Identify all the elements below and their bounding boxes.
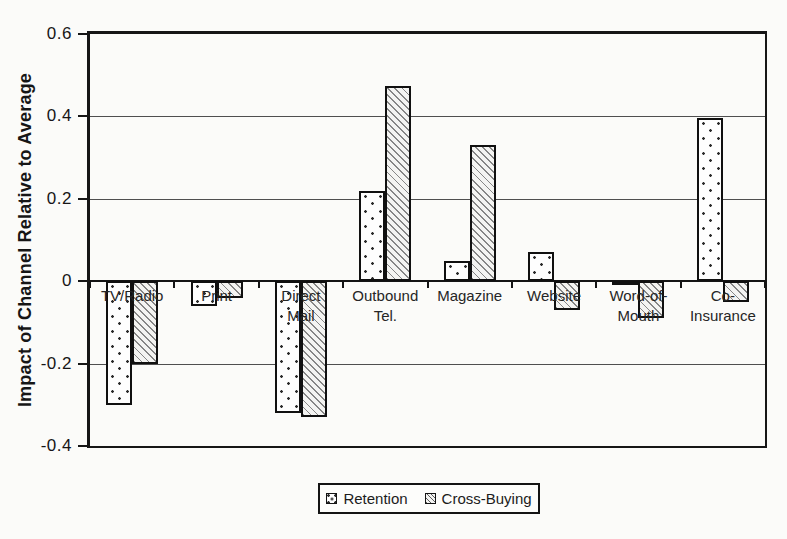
retention-swatch-icon [326,493,337,504]
legend: Retention Cross-Buying [318,483,540,514]
bar-retention [528,252,554,281]
y-axis-tick [78,33,87,35]
y-axis-tick [78,280,87,282]
gridline [90,116,765,117]
y-axis-tick [78,445,87,447]
chart-page: Impact of Channel Relative to Average 0.… [0,0,787,539]
legend-label-retention: Retention [343,490,407,507]
category-label: TV/Radio [86,286,178,306]
category-label: Word-of-Mouth [592,286,684,326]
bar-retention [444,261,470,282]
y-tick-label: -0.4 [18,436,72,456]
category-label: Print [170,286,262,306]
bar-cross-buying [385,86,411,282]
y-axis-title: Impact of Channel Relative to Average [15,73,36,407]
legend-label-cross-buying: Cross-Buying [442,490,532,507]
bar-cross-buying [470,145,496,281]
gridline [90,364,765,365]
category-label: Co-Insurance [677,286,769,326]
y-tick-label: 0.6 [18,24,72,44]
bar-retention [612,281,638,285]
category-label: DirectMail [255,286,347,326]
y-axis-tick [78,198,87,200]
category-label: OutboundTel. [339,286,431,326]
plot-area: 0.60.40.20-0.2-0.4TV/RadioPrintDirectMai… [87,31,767,448]
bar-retention [697,118,723,281]
gridline [90,199,765,200]
bar-retention [359,191,385,282]
y-axis-tick [78,115,87,117]
legend-item-retention: Retention [326,490,407,507]
cross-buying-swatch-icon [425,493,436,504]
category-label: Website [508,286,600,306]
y-axis-tick [78,363,87,365]
legend-item-cross-buying: Cross-Buying [425,490,532,507]
category-label: Magazine [424,286,516,306]
